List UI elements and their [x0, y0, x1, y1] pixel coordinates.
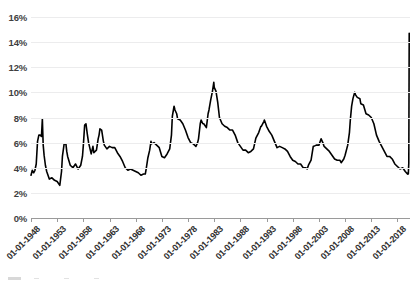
x-axis-tick — [293, 218, 294, 222]
legend-dash-icon — [34, 278, 39, 279]
x-axis-tick — [162, 218, 163, 222]
unemployment-rate-line-chart: 0%2%4%6%8%10%12%14%16% 01-01-194801-01-1… — [0, 0, 414, 281]
y-axis-tick-label: 2% — [14, 187, 27, 198]
x-axis-tick — [240, 218, 241, 222]
x-axis-tick — [83, 218, 84, 222]
x-axis-tick — [31, 218, 32, 222]
x-axis-tick — [397, 218, 398, 222]
gridline — [31, 67, 410, 68]
x-axis-tick — [57, 218, 58, 222]
y-axis-tick-label: 4% — [14, 162, 27, 173]
plot-area — [31, 17, 410, 218]
x-axis-tick — [267, 218, 268, 222]
unemployment-line — [31, 33, 409, 185]
gridline — [31, 168, 410, 169]
y-axis-tick-label: 16% — [9, 12, 27, 23]
gridline — [31, 143, 410, 144]
y-axis-tick-label: 10% — [9, 87, 27, 98]
gridline — [31, 42, 410, 43]
y-axis-tick-label: 0% — [14, 213, 27, 224]
x-axis-tick — [110, 218, 111, 222]
y-axis-tick-label: 6% — [14, 137, 27, 148]
legend-swatch-icon — [8, 277, 21, 280]
gridline — [31, 193, 410, 194]
x-axis-tick — [319, 218, 320, 222]
x-axis-tick — [345, 218, 346, 222]
x-axis-tick — [188, 218, 189, 222]
x-axis-tick — [136, 218, 137, 222]
legend-remnant — [8, 276, 128, 281]
x-axis-line — [31, 218, 410, 219]
legend-dash-icon — [64, 278, 69, 279]
gridline — [31, 118, 410, 119]
y-axis-tick-label: 12% — [9, 62, 27, 73]
gridline — [31, 17, 410, 18]
y-axis-tick-label: 8% — [14, 112, 27, 123]
x-axis-tick — [371, 218, 372, 222]
y-axis-tick-label: 14% — [9, 37, 27, 48]
x-axis-tick — [214, 218, 215, 222]
legend-dash-icon — [94, 278, 99, 279]
gridline — [31, 92, 410, 93]
